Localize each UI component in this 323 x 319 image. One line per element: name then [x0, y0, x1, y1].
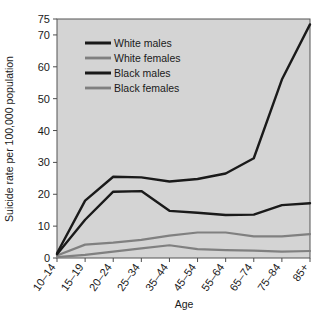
plot-area-background [57, 19, 310, 258]
legend-label-black-males: Black males [114, 67, 171, 79]
legend-label-white-females: White females [114, 52, 181, 64]
legend-label-black-females: Black females [114, 82, 179, 94]
y-tick-label: 30 [38, 156, 50, 168]
chart-container: 01020304050607075 10–1415–1920–2425–3435… [0, 0, 323, 319]
legend-label-white-males: White males [114, 37, 172, 49]
y-tick-label: 20 [38, 188, 50, 200]
y-tick-label: 50 [38, 93, 50, 105]
x-axis-title: Age [175, 298, 194, 310]
y-tick-label: 60 [38, 61, 50, 73]
line-chart: 01020304050607075 10–1415–1920–2425–3435… [0, 0, 323, 319]
y-tick-label: 70 [38, 29, 50, 41]
y-tick-label: 10 [38, 220, 50, 232]
y-axis-title: Suicide rate per 100,000 population [3, 56, 15, 222]
y-tick-label: 75 [38, 13, 50, 25]
y-tick-label: 40 [38, 125, 50, 137]
